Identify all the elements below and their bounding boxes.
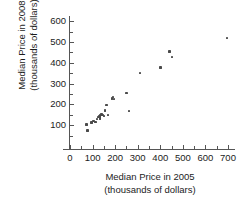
scatter-plot-figure: 100200300400500600 010020030040050060070…: [0, 0, 250, 206]
y-axis-title: Median Price in 2008 (thousands of dolla…: [16, 0, 40, 125]
y-tick-label: 400: [36, 57, 66, 68]
y-axis-title-line2: (thousands of dollars): [28, 0, 40, 125]
y-tick-major: [70, 104, 74, 105]
x-tick-minor: [217, 146, 218, 149]
x-tick-minor: [126, 146, 127, 149]
x-tick-minor: [194, 146, 195, 149]
data-point: [86, 129, 89, 132]
data-point: [125, 92, 128, 95]
x-axis-title-line2: (thousands of dollars): [55, 184, 245, 197]
x-tick-label: 700: [213, 152, 243, 163]
y-tick-major: [70, 84, 74, 85]
data-point: [104, 109, 107, 112]
x-tick-major: [228, 145, 229, 149]
y-tick-major: [70, 21, 74, 22]
y-tick-minor: [70, 94, 73, 95]
x-tick-major: [93, 145, 94, 149]
y-tick-minor: [70, 136, 73, 137]
x-axis-line: [63, 149, 235, 150]
x-tick-major: [138, 145, 139, 149]
x-tick-major: [115, 145, 116, 149]
y-tick-label: 500: [36, 36, 66, 47]
data-point: [105, 104, 108, 107]
data-point: [171, 56, 174, 59]
data-point: [226, 37, 229, 40]
y-tick-major: [70, 125, 74, 126]
data-point: [168, 50, 171, 53]
x-axis-title: Median Price in 2005 (thousands of dolla…: [55, 171, 245, 196]
x-tick-minor: [172, 146, 173, 149]
y-tick-label: 100: [36, 119, 66, 130]
y-tick-label: 200: [36, 98, 66, 109]
data-point: [128, 110, 131, 113]
data-point: [113, 98, 116, 101]
y-tick-minor: [70, 115, 73, 116]
y-tick-label: 300: [36, 78, 66, 89]
data-point: [139, 72, 142, 75]
data-point: [85, 123, 88, 126]
x-tick-minor: [149, 146, 150, 149]
data-point: [159, 66, 162, 69]
x-axis-title-line1: Median Price in 2005: [105, 171, 194, 182]
x-tick-major: [183, 145, 184, 149]
y-tick-major: [70, 42, 74, 43]
x-tick-minor: [81, 146, 82, 149]
y-tick-minor: [70, 32, 73, 33]
x-tick-major: [160, 145, 161, 149]
y-axis-title-line1: Median Price in 2008: [16, 0, 27, 89]
x-tick-major: [70, 145, 71, 149]
x-tick-major: [205, 145, 206, 149]
y-tick-minor: [70, 73, 73, 74]
data-point: [94, 121, 97, 124]
data-point: [103, 115, 106, 118]
data-point: [99, 117, 102, 120]
y-tick-label: 600: [36, 15, 66, 26]
data-point: [107, 114, 110, 117]
x-tick-minor: [104, 146, 105, 149]
y-tick-minor: [70, 52, 73, 53]
y-tick-major: [70, 63, 74, 64]
